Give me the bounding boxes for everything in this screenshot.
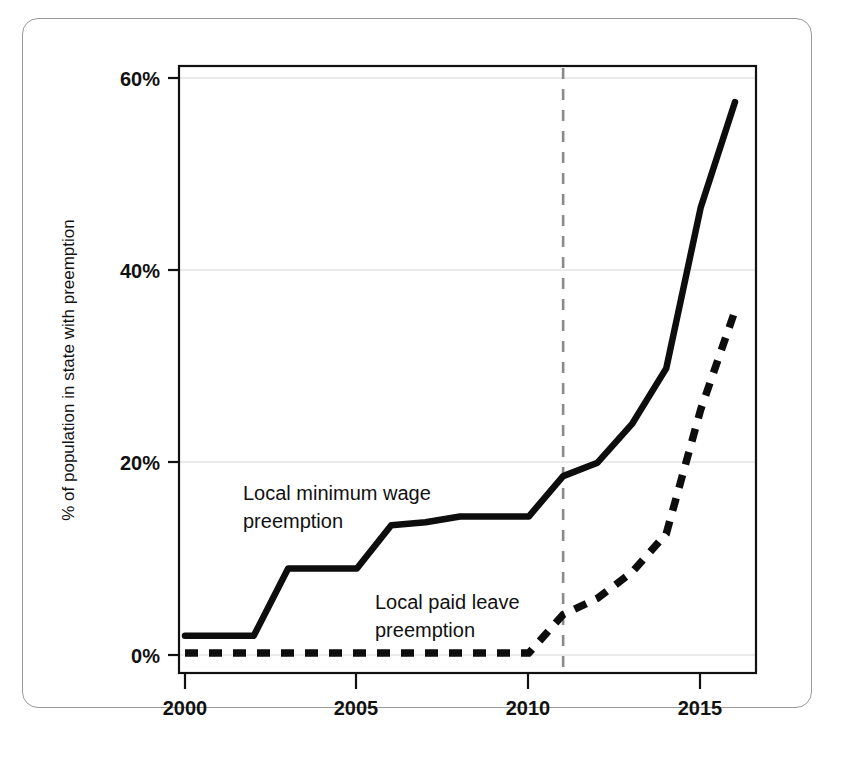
x-axis-tick-labels: 2000 2005 2010 2015 [163, 697, 723, 719]
ytick-label-0: 0% [131, 645, 160, 667]
y-axis-tick-labels: 60% 40% 20% 0% [120, 68, 160, 667]
y-axis-title: % of population in state with preemption [59, 219, 78, 520]
ytick-label-40: 40% [120, 260, 160, 282]
xtick-label-2000: 2000 [163, 697, 208, 719]
plot-frame [179, 66, 756, 673]
preemption-line-chart: 60% 40% 20% 0% 2000 2005 2010 2015 % of … [0, 0, 853, 762]
xtick-label-2015: 2015 [678, 697, 723, 719]
annotation-paidleave-line1: Local paid leave [375, 591, 520, 613]
chart-area: 60% 40% 20% 0% 2000 2005 2010 2015 % of … [0, 0, 853, 762]
y-axis-ticks [168, 78, 179, 655]
series-local-minimum-wage-preemption [185, 102, 735, 636]
x-axis-ticks [185, 673, 700, 689]
annotation-minwage-line2: preemption [243, 510, 343, 532]
annotation-paidleave-line2: preemption [375, 619, 475, 641]
ytick-label-20: 20% [120, 452, 160, 474]
ytick-label-60: 60% [120, 68, 160, 90]
xtick-label-2005: 2005 [334, 697, 379, 719]
xtick-label-2010: 2010 [506, 697, 551, 719]
annotation-local-paid-leave: Local paid leave preemption [375, 591, 520, 641]
annotation-minwage-line1: Local minimum wage [243, 482, 431, 504]
